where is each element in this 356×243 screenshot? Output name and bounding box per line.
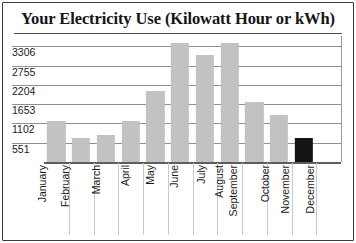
bar-november[interactable] <box>295 138 313 163</box>
bar-april[interactable] <box>121 121 139 162</box>
bar-january[interactable] <box>47 121 65 162</box>
x-tick-label-december: December <box>304 165 315 213</box>
bar-august[interactable] <box>220 43 238 162</box>
x-tick-label-may: May <box>145 165 156 185</box>
x-label-slot: March <box>94 163 119 239</box>
bar-slot <box>242 36 267 162</box>
x-label-slot: May <box>143 163 168 239</box>
x-label-slot: April <box>118 163 143 239</box>
y-tick-label: 1653 <box>12 105 44 116</box>
x-axis-labels: JanuaryFebruaryMarchAprilMayJuneJulyAugu… <box>44 163 341 239</box>
x-label-slot: December <box>316 163 341 239</box>
bar-slot <box>94 36 119 162</box>
bar-series <box>44 36 341 162</box>
x-tick-label-august: August <box>213 165 224 198</box>
bar-slot <box>118 36 143 162</box>
bar-slot <box>168 36 193 162</box>
chart-page: Your Electricity Use (Kilowatt Hour or k… <box>0 0 356 243</box>
x-tick-label-november: November <box>280 165 291 213</box>
bar-slot <box>44 36 69 162</box>
bar-july[interactable] <box>196 55 214 162</box>
y-tick-label: 2204 <box>12 86 44 97</box>
y-tick-label: 2755 <box>12 67 44 78</box>
bar-slot <box>292 36 317 162</box>
x-tick-label-april: April <box>120 165 131 186</box>
page-title: Your Electricity Use (Kilowatt Hour or k… <box>10 6 346 32</box>
bar-slot <box>143 36 168 162</box>
x-tick-label-june: June <box>169 165 180 188</box>
x-tick-label-october: October <box>260 165 271 202</box>
bar-february[interactable] <box>72 138 90 163</box>
x-tick-label-january: January <box>38 165 49 202</box>
x-tick-label-march: March <box>91 165 102 194</box>
y-tick-label: 1102 <box>12 124 44 135</box>
bar-september[interactable] <box>245 102 263 162</box>
bar-june[interactable] <box>171 43 189 162</box>
x-tick-label-july: July <box>196 165 207 184</box>
bar-slot <box>69 36 94 162</box>
y-tick-label: 3306 <box>12 47 44 58</box>
bar-march[interactable] <box>97 135 115 162</box>
bar-october[interactable] <box>270 115 288 162</box>
x-tick-label-september: September <box>229 165 240 216</box>
bar-slot <box>267 36 292 162</box>
bar-slot <box>217 36 242 162</box>
y-tick-label: 551 <box>12 144 44 155</box>
bar-slot <box>193 36 218 162</box>
title-underline <box>14 33 342 34</box>
bar-slot <box>316 36 341 162</box>
plot-right-edge <box>341 36 342 162</box>
bar-may[interactable] <box>146 91 164 162</box>
x-tick-label-february: February <box>60 165 71 207</box>
x-label-slot: June <box>168 163 193 239</box>
